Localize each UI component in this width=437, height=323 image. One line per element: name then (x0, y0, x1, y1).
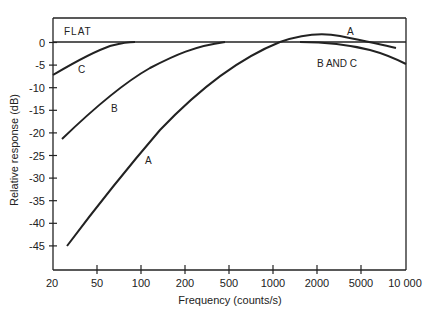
x-tick-label: 500 (220, 277, 238, 289)
y-axis-title: Relative response (dB) (8, 94, 20, 206)
y-tick-label: -40 (29, 217, 45, 229)
y-tick-label: -30 (29, 172, 45, 184)
curve-c (53, 42, 135, 75)
x-tick-label: 50 (91, 277, 103, 289)
y-tick-label: -35 (29, 195, 45, 207)
x-tick-label: 20 (46, 277, 58, 289)
label-a-low: A (145, 155, 152, 166)
x-tick-label: 200 (176, 277, 194, 289)
plot-frame (53, 18, 406, 270)
y-tick-label: 0 (39, 37, 45, 49)
y-tick-label: -10 (29, 82, 45, 94)
x-tick-label: 1000 (261, 277, 285, 289)
y-tick-label: -45 (29, 240, 45, 252)
y-tick-label: -25 (29, 150, 45, 162)
x-tick-label: 5000 (349, 277, 373, 289)
x-axis-title: Frequency (counts/s) (178, 294, 281, 306)
x-tick-label: 2000 (305, 277, 329, 289)
label-flat: FLAT (64, 26, 92, 37)
label-b: B (111, 103, 118, 114)
x-tick-label: 100 (132, 277, 150, 289)
label-c: C (78, 64, 85, 75)
label-b-and-c: B AND C (317, 58, 357, 69)
y-tick-label: -5 (35, 59, 45, 71)
y-tick-label: -15 (29, 104, 45, 116)
x-axis: 205010020050010002000500010 000 (46, 265, 422, 289)
label-a-high: A (347, 26, 354, 37)
y-tick-label: -20 (29, 127, 45, 139)
x-tick-label: 10 000 (388, 277, 422, 289)
chart: 0-5-10-15-20-25-30-35-40-45 205010020050… (0, 0, 437, 323)
